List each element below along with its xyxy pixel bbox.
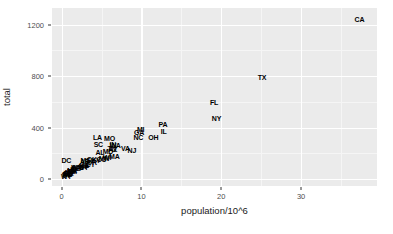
y-axis-title: total — [1, 88, 12, 106]
y-axis-tick-mark — [48, 24, 51, 25]
x-axis-tick-mark — [141, 187, 142, 190]
data-point-label: NY — [212, 114, 221, 121]
x-axis-tick-mark — [301, 187, 302, 190]
y-axis-tick-mark — [48, 178, 51, 179]
grid-line-minor-vertical — [261, 8, 262, 186]
data-point-label: TX — [258, 74, 267, 81]
data-point-label: NJ — [128, 147, 137, 154]
grid-line-major-horizontal — [52, 179, 377, 180]
data-point-label: SC — [94, 141, 103, 148]
x-axis-tick-mark — [61, 187, 62, 190]
scatter-plot-figure: CATXFLNYPAILMIGAOHNCMOLASCINWAVATNAZNJMD… — [0, 0, 393, 234]
grid-line-minor-vertical — [341, 8, 342, 186]
x-axis-tick-label: 10 — [137, 192, 145, 201]
y-axis-tick-mark — [48, 76, 51, 77]
grid-line-minor-vertical — [181, 8, 182, 186]
data-point-label: OH — [148, 133, 158, 140]
y-axis-tick-label: 0 — [0, 174, 44, 183]
x-axis-tick-label: 30 — [297, 192, 305, 201]
grid-line-major-horizontal — [52, 128, 377, 129]
x-axis-tick-mark — [221, 187, 222, 190]
x-axis-tick-label: 20 — [217, 192, 225, 201]
data-point-label: NC — [133, 134, 143, 141]
grid-line-major-vertical — [301, 8, 302, 186]
data-point-label: DC — [62, 156, 72, 163]
x-axis-tick-label: 0 — [59, 192, 63, 201]
y-axis-tick-label: 400 — [0, 123, 44, 132]
data-point-label: CA — [355, 16, 365, 23]
data-point-label: WY — [61, 172, 72, 179]
y-axis-tick-label: 800 — [0, 72, 44, 81]
grid-line-major-vertical — [141, 8, 142, 186]
plot-panel: CATXFLNYPAILMIGAOHNCMOLASCINWAVATNAZNJMD… — [52, 8, 377, 186]
grid-line-major-vertical — [221, 8, 222, 186]
grid-line-major-horizontal — [52, 76, 377, 77]
x-axis-title: population/10^6 — [52, 205, 377, 216]
data-point-label: LA — [93, 133, 102, 140]
y-axis-tick-mark — [48, 127, 51, 128]
y-axis-tick-label: 1200 — [0, 20, 44, 29]
grid-line-major-horizontal — [52, 25, 377, 26]
data-point-label: FL — [210, 98, 218, 105]
data-point-label: IL — [161, 127, 167, 134]
